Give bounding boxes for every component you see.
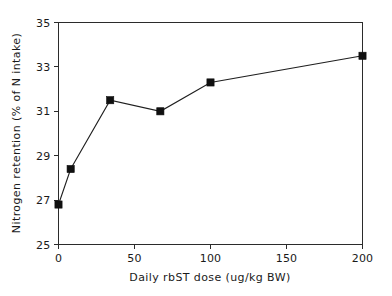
y-tick-labels: 252729313335 [36, 17, 50, 252]
data-point-marker [359, 52, 366, 59]
x-tick-labels: 050100150200 [55, 252, 373, 265]
data-point-marker [67, 165, 74, 172]
chart-figure: 050100150200 252729313335 Daily rbST dos… [0, 0, 392, 296]
line-chart: 050100150200 252729313335 Daily rbST dos… [0, 0, 392, 296]
axes [59, 23, 363, 245]
x-tick-label: 150 [276, 252, 298, 265]
x-tick-label: 200 [352, 252, 374, 265]
data-point-marker [107, 97, 114, 104]
tick-marks [54, 23, 363, 250]
y-tick-label: 31 [36, 105, 50, 118]
y-tick-label: 25 [36, 239, 50, 252]
data-series [55, 52, 366, 208]
y-tick-label: 33 [36, 61, 50, 74]
series-line [59, 56, 363, 205]
y-tick-label: 35 [36, 17, 50, 30]
y-tick-label: 29 [36, 150, 50, 163]
x-axis-title: Daily rbST dose (ug/kg BW) [129, 271, 290, 284]
data-point-marker [55, 201, 62, 208]
y-axis-title: Nitrogen retention (% of N intake) [10, 33, 23, 233]
data-point-marker [157, 108, 164, 115]
x-tick-label: 0 [55, 252, 62, 265]
data-point-marker [207, 79, 214, 86]
x-tick-label: 100 [200, 252, 222, 265]
y-tick-label: 27 [36, 194, 50, 207]
x-tick-label: 50 [127, 252, 141, 265]
